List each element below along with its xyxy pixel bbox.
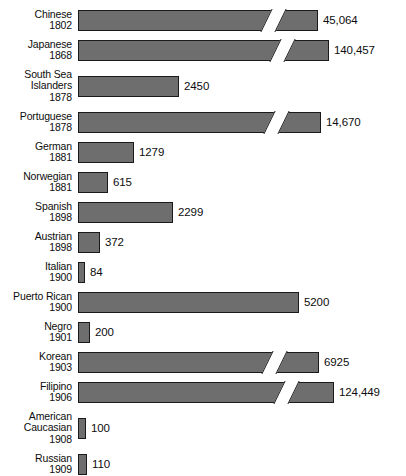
bar-value-label: 14,670 (326, 116, 361, 128)
bar-with-scale-break (78, 382, 334, 403)
scale-break-icon (260, 9, 286, 32)
row-label: Japanese 1868 (0, 39, 78, 62)
bar-zone: 200 (78, 321, 406, 343)
row-label: Italian 1900 (0, 261, 78, 284)
chart-row: Russian 1909110 (0, 453, 406, 475)
bar-value-label: 615 (113, 176, 132, 188)
bar-value-label: 2299 (178, 206, 203, 218)
bar-value-label: 84 (90, 266, 103, 278)
bar-zone: 110 (78, 453, 406, 475)
chart-row: Portuguese 187814,670 (0, 111, 406, 133)
bar-zone: 45,064 (78, 9, 406, 31)
bar-zone: 1279 (78, 141, 406, 163)
bar (78, 454, 87, 475)
chart-row: South Sea Islanders 18782450 (0, 69, 406, 103)
bar-value-label: 5200 (304, 296, 329, 308)
row-label: Korean 1903 (0, 351, 78, 374)
bar-zone: 6925 (78, 351, 406, 373)
bar (78, 142, 134, 163)
bar-zone: 84 (78, 261, 406, 283)
bar-value-label: 2450 (184, 80, 209, 92)
row-label: American Caucasian 1908 (0, 411, 78, 446)
bar-zone: 100 (78, 411, 406, 445)
chart-row: Negro 1901200 (0, 321, 406, 343)
bar-value-label: 124,449 (339, 386, 380, 398)
chart-row: Filipino 1906124,449 (0, 381, 406, 403)
row-label: Filipino 1906 (0, 381, 78, 404)
bar-value-label: 110 (92, 458, 110, 470)
chart-row: Korean 19036925 (0, 351, 406, 373)
chart-row: Italian 190084 (0, 261, 406, 283)
scale-break-icon (261, 351, 287, 374)
bar-zone: 372 (78, 231, 406, 253)
chart-row: Puerto Rican 19005200 (0, 291, 406, 313)
bar-zone: 124,449 (78, 381, 406, 403)
bar-with-scale-break (78, 352, 319, 373)
row-label: Portuguese 1878 (0, 111, 78, 134)
bar-value-label: 6925 (324, 356, 349, 368)
bar-with-scale-break (78, 10, 318, 31)
bar-value-label: 200 (95, 326, 114, 338)
chart-row: Spanish 18982299 (0, 201, 406, 223)
bar-value-label: 45,064 (323, 14, 358, 26)
row-label: Austrian 1898 (0, 231, 78, 254)
bar-value-label: 372 (105, 236, 124, 248)
bar (78, 262, 85, 283)
row-label: German 1881 (0, 141, 78, 164)
row-label: Spanish 1898 (0, 201, 78, 224)
chart-row: German 18811279 (0, 141, 406, 163)
row-label: South Sea Islanders 1878 (0, 69, 78, 104)
chart-row: Chinese 180245,064 (0, 9, 406, 31)
bar-zone: 615 (78, 171, 406, 193)
bar-with-scale-break (78, 112, 321, 133)
bar (78, 172, 108, 193)
bar-value-label: 140,457 (334, 44, 375, 56)
bar-zone: 140,457 (78, 39, 406, 61)
bar-zone: 14,670 (78, 111, 406, 133)
chart-row: American Caucasian 1908100 (0, 411, 406, 445)
scale-break-icon (263, 111, 289, 134)
bar-zone: 5200 (78, 291, 406, 313)
bar-zone: 2299 (78, 201, 406, 223)
bar (78, 202, 173, 223)
bar (78, 292, 299, 313)
row-label: Russian 1909 (0, 453, 78, 476)
row-label: Chinese 1802 (0, 9, 78, 32)
chart-row: Norwegian 1881615 (0, 171, 406, 193)
scale-break-icon (269, 39, 295, 62)
row-label: Puerto Rican 1900 (0, 291, 78, 314)
scale-break-icon (273, 381, 299, 404)
chart-row: Austrian 1898372 (0, 231, 406, 253)
chart-row: Japanese 1868140,457 (0, 39, 406, 61)
row-label: Norwegian 1881 (0, 171, 78, 194)
bar-with-scale-break (78, 40, 329, 61)
bar-value-label: 1279 (139, 146, 164, 158)
bar (78, 322, 90, 343)
row-label: Negro 1901 (0, 321, 78, 344)
bar (78, 418, 86, 439)
bar (78, 232, 100, 253)
bar-zone: 2450 (78, 69, 406, 103)
bar (78, 76, 179, 97)
bar-value-label: 100 (91, 422, 110, 434)
